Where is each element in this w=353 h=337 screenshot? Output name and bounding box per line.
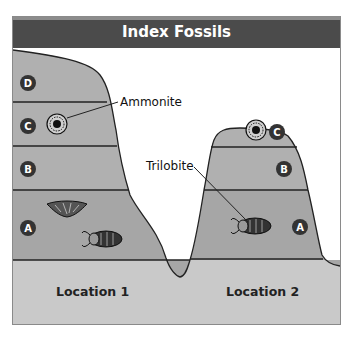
ammonite-fossil-icon <box>47 114 67 134</box>
ammonite-label: Ammonite <box>120 95 182 109</box>
svg-text:B: B <box>280 164 288 175</box>
svg-text:A: A <box>24 223 32 234</box>
svg-text:B: B <box>24 164 32 175</box>
badge-d-loc1: D <box>24 78 32 89</box>
svg-text:A: A <box>296 222 304 233</box>
location-2-column <box>190 128 340 266</box>
location-2-label: Location 2 <box>226 284 299 299</box>
svg-text:C: C <box>24 121 31 132</box>
trilobite-label: Trilobite <box>146 159 194 173</box>
svg-text:C: C <box>273 127 280 138</box>
location-1-label: Location 1 <box>56 284 129 299</box>
ammonite-fossil-icon <box>246 120 266 140</box>
